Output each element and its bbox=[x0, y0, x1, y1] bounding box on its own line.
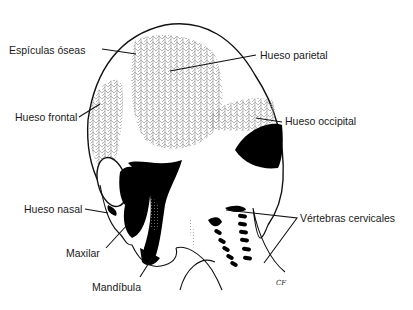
label-hueso-frontal: Hueso frontal bbox=[15, 112, 77, 123]
label-mandibula: Mandíbula bbox=[92, 282, 141, 293]
label-maxilar: Maxilar bbox=[66, 248, 100, 259]
artist-signature: CF bbox=[276, 279, 286, 287]
label-hueso-nasal: Hueso nasal bbox=[24, 204, 82, 215]
label-hueso-occipital: Hueso occipital bbox=[285, 116, 356, 127]
fetal-skull-diagram: Espículas óseas Hueso parietal Hueso fro… bbox=[0, 0, 413, 310]
cervical-vertebrae bbox=[208, 206, 252, 268]
neck-outline bbox=[180, 260, 215, 290]
stippled-region-2 bbox=[190, 218, 195, 250]
label-espiculas-oseas: Espículas óseas bbox=[9, 45, 85, 56]
chin-neck-outline bbox=[176, 247, 222, 290]
label-hueso-parietal: Hueso parietal bbox=[260, 50, 328, 61]
label-vertebras-cervicales: Vértebras cervicales bbox=[300, 213, 395, 224]
parietal-spicules bbox=[131, 35, 222, 149]
